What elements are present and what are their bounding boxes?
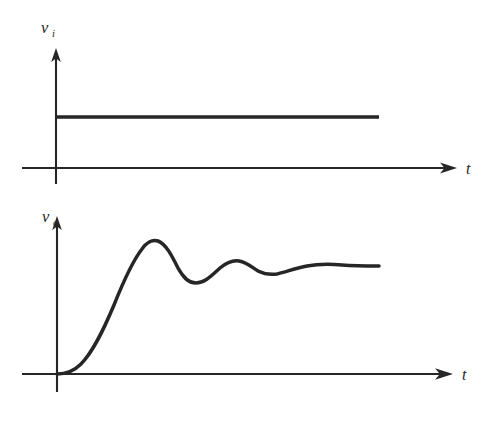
output-plot: v o t bbox=[22, 207, 467, 392]
waveform-figure: v i t v o t bbox=[0, 0, 481, 429]
output-step-response-waveform bbox=[57, 240, 379, 374]
output-plot-x-axis-label: t bbox=[462, 366, 467, 383]
output-plot-y-axis-label: v o bbox=[42, 207, 58, 228]
output-plot-y-axis-label-main: v bbox=[42, 207, 50, 226]
input-plot-y-axis-label: v i bbox=[41, 18, 55, 39]
input-plot-y-axis-label-main: v bbox=[41, 18, 49, 37]
input-plot-y-axis-label-subscript: i bbox=[52, 28, 55, 39]
input-plot-x-axis-label: t bbox=[466, 160, 471, 177]
output-plot-y-axis-label-subscript: o bbox=[53, 217, 58, 228]
figure-root: v i t v o t bbox=[0, 0, 481, 429]
input-plot: v i t bbox=[22, 18, 471, 184]
